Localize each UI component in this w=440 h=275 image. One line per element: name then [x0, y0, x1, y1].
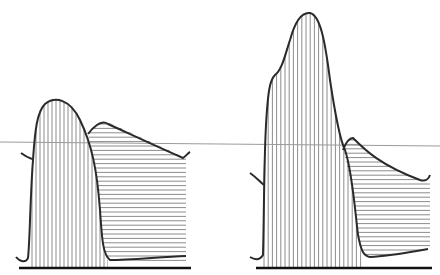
- right-systolic-hatch: [264, 5, 361, 268]
- reference-line: [0, 142, 440, 146]
- diagram: [0, 0, 440, 275]
- left-diastolic-hatch: [85, 124, 188, 260]
